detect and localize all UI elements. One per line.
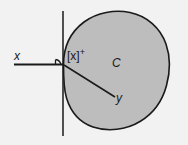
convex-set-shape	[64, 11, 170, 129]
label-vector-x: x	[14, 50, 20, 62]
figure-canvas: x [x]+ C y	[0, 0, 188, 145]
diagram-svg	[0, 0, 188, 145]
label-projection-point: [x]+	[67, 50, 85, 62]
label-set-c: C	[112, 57, 121, 69]
label-projection-superscript: +	[80, 47, 85, 57]
label-projection-base: [x]	[67, 49, 80, 63]
label-point-y: y	[116, 92, 122, 104]
